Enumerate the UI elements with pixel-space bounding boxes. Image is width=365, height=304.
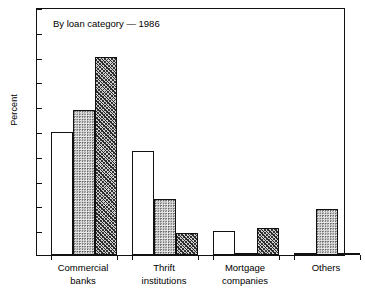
x-tick-mark bbox=[198, 255, 199, 260]
bar bbox=[235, 253, 257, 255]
x-tick-mark bbox=[279, 255, 280, 260]
bar bbox=[257, 228, 279, 255]
bar bbox=[176, 233, 198, 255]
y-tick-mark bbox=[37, 183, 42, 184]
y-tick-mark bbox=[37, 34, 42, 35]
x-tick-mark bbox=[294, 255, 295, 260]
y-tick-mark bbox=[37, 59, 42, 60]
bar bbox=[213, 231, 235, 255]
y-axis-title: Percent bbox=[9, 75, 19, 145]
y-tick-mark bbox=[37, 108, 42, 109]
x-tick-mark bbox=[51, 255, 52, 260]
bar bbox=[338, 253, 360, 255]
y-tick-mark bbox=[37, 83, 42, 84]
y-tick-mark bbox=[37, 232, 42, 233]
x-category-label-line: Others bbox=[271, 262, 365, 275]
x-tick-mark bbox=[117, 255, 118, 260]
bar bbox=[51, 132, 73, 255]
chart-annotation: By loan category — 1986 bbox=[53, 18, 160, 29]
x-tick-mark bbox=[360, 255, 361, 260]
plot-area: By loan category — 1986 bbox=[36, 8, 345, 256]
bar bbox=[154, 199, 176, 255]
bar bbox=[95, 57, 117, 255]
x-category-label: Others bbox=[271, 262, 365, 275]
bar bbox=[294, 253, 316, 255]
x-tick-mark bbox=[132, 255, 133, 260]
bar bbox=[132, 151, 154, 255]
y-tick-mark bbox=[37, 133, 42, 134]
x-category-label-line: companies bbox=[190, 275, 300, 288]
y-tick-mark bbox=[37, 158, 42, 159]
y-tick-mark bbox=[37, 9, 42, 10]
bar bbox=[316, 209, 338, 255]
y-tick-mark bbox=[37, 207, 42, 208]
x-tick-mark bbox=[213, 255, 214, 260]
bar bbox=[73, 110, 95, 255]
